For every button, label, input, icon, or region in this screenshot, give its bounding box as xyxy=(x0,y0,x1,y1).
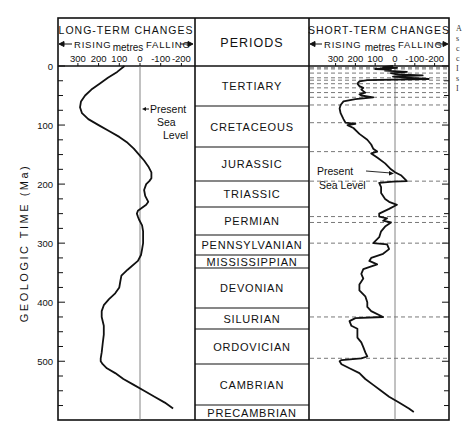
period-label-ordovician: ORDOVICIAN xyxy=(213,341,291,353)
short-falling-label: FALLING xyxy=(398,39,443,50)
short-term-curve xyxy=(340,66,429,412)
y-tick-label: 0 xyxy=(48,61,53,72)
x-tick-label: 200 xyxy=(347,53,363,64)
period-label-precambrian: PRECAMBRIAN xyxy=(207,407,296,419)
caption-fragment-char: A xyxy=(456,24,469,34)
x-tick-label: 300 xyxy=(70,53,86,64)
annot-long-3: Level xyxy=(163,129,188,141)
long-term-header: LONG-TERM CHANGES RISING metres FALLING … xyxy=(59,24,194,66)
caption-fragment-char: s xyxy=(456,34,469,44)
x-tick-label: 300 xyxy=(328,53,344,64)
short-rising-label: RISING xyxy=(324,39,362,50)
y-tick-label: 200 xyxy=(37,179,53,190)
y-axis: 0100200300400500 xyxy=(37,61,449,406)
period-label-cretaceous: CRETACEOUS xyxy=(210,121,294,133)
period-label-cambrian: CAMBRIAN xyxy=(220,379,284,391)
long-metres-label: metres xyxy=(113,42,144,53)
short-term-header: SHORT-TERM CHANGES RISING metres FALLING… xyxy=(308,24,450,66)
short-present-sea-level-annotation: Present Sea Level xyxy=(317,165,394,191)
short-metres-label: metres xyxy=(365,42,396,53)
y-axis-label: GEOLOGIC TIME (Ma) xyxy=(18,164,30,322)
x-tick-label: 0 xyxy=(392,53,397,64)
y-tick-label: 500 xyxy=(37,356,53,367)
period-label-permian: PERMIAN xyxy=(224,215,280,227)
sea-level-chart: LONG-TERM CHANGES RISING metres FALLING … xyxy=(0,0,469,436)
y-tick-label: 400 xyxy=(37,297,53,308)
annot-long-2: Sea xyxy=(157,116,176,128)
cropped-caption-fragment: AsccIsI xyxy=(456,24,469,94)
long-x-ticks: 3002001000-100-200 xyxy=(70,53,191,66)
long-term-title: LONG-TERM CHANGES xyxy=(59,24,194,36)
period-label-silurian: SILURIAN xyxy=(223,313,280,325)
x-tick-label: 0 xyxy=(137,53,142,64)
period-label-tertiary: TERTIARY xyxy=(222,80,282,92)
period-label-jurassic: JURASSIC xyxy=(222,158,283,170)
period-label-mississippian: MISSISSIPPIAN xyxy=(206,256,297,268)
caption-fragment-char: c xyxy=(456,44,469,54)
short-term-title: SHORT-TERM CHANGES xyxy=(308,24,450,36)
caption-fragment-char: I xyxy=(456,64,469,74)
caption-fragment-char: s xyxy=(456,74,469,84)
long-rising-label: RISING xyxy=(74,39,112,50)
x-tick-label: 200 xyxy=(91,53,107,64)
period-label-pennsylvanian: PENNSYLVANIAN xyxy=(201,239,302,251)
annot-long-1: Present xyxy=(150,103,186,115)
y-tick-label: 100 xyxy=(37,120,53,131)
period-label-triassic: TRIASSIC xyxy=(223,188,280,200)
caption-fragment-char: I xyxy=(456,84,469,94)
period-label-devonian: DEVONIAN xyxy=(220,282,284,294)
y-tick-label: 300 xyxy=(37,238,53,249)
x-tick-label: 100 xyxy=(367,53,383,64)
caption-fragment-char: c xyxy=(456,54,469,64)
x-tick-label: 100 xyxy=(111,53,127,64)
x-tick-label: -200 xyxy=(172,53,191,64)
periods-header: PERIODS xyxy=(220,36,283,50)
periods-column: TERTIARYCRETACEOUSJURASSICTRIASSICPERMIA… xyxy=(195,80,309,419)
x-tick-label: -100 xyxy=(405,53,424,64)
x-tick-label: -200 xyxy=(425,53,444,64)
long-present-sea-level-annotation: Present Sea Level xyxy=(142,103,188,141)
annot-short-2: Sea Level xyxy=(319,179,366,191)
annot-short-1: Present xyxy=(317,165,353,177)
short-x-ticks: 3002001000-100-200 xyxy=(328,53,444,66)
x-tick-label: -100 xyxy=(151,53,170,64)
